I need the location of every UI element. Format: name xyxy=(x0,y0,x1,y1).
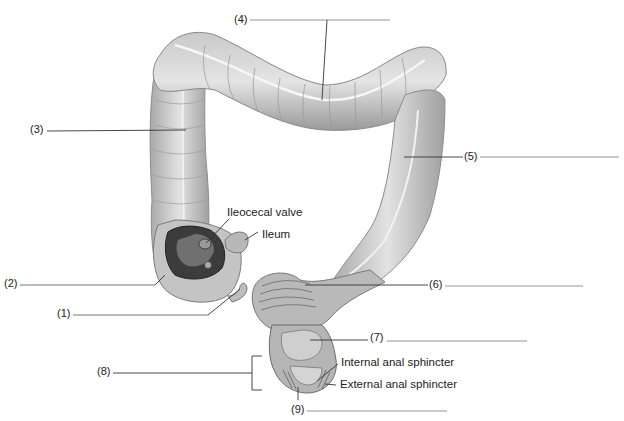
rectum xyxy=(269,325,336,393)
label-9: (9) xyxy=(291,403,304,415)
label-1: (1) xyxy=(57,307,70,319)
label-7: (7) xyxy=(370,331,383,343)
internal-anal-sphincter-label: Internal anal sphincter xyxy=(341,356,454,369)
label-2: (2) xyxy=(4,277,17,289)
ileocecal-valve-label: Ileocecal valve xyxy=(227,206,302,219)
label-4: (4) xyxy=(234,13,247,25)
label-5: (5) xyxy=(464,150,477,162)
cecum xyxy=(153,220,248,302)
sigmoid-colon xyxy=(252,270,385,331)
colon-illustration xyxy=(0,0,624,421)
label-6: (6) xyxy=(429,278,442,290)
label-8: (8) xyxy=(97,365,110,377)
colon-diagram: (4) (3) (5) Ileocecal valve Ileum (2) (1… xyxy=(0,0,624,421)
label-3: (3) xyxy=(30,123,43,135)
ileum-label: Ileum xyxy=(262,228,290,241)
external-anal-sphincter-label: External anal sphincter xyxy=(340,378,457,391)
